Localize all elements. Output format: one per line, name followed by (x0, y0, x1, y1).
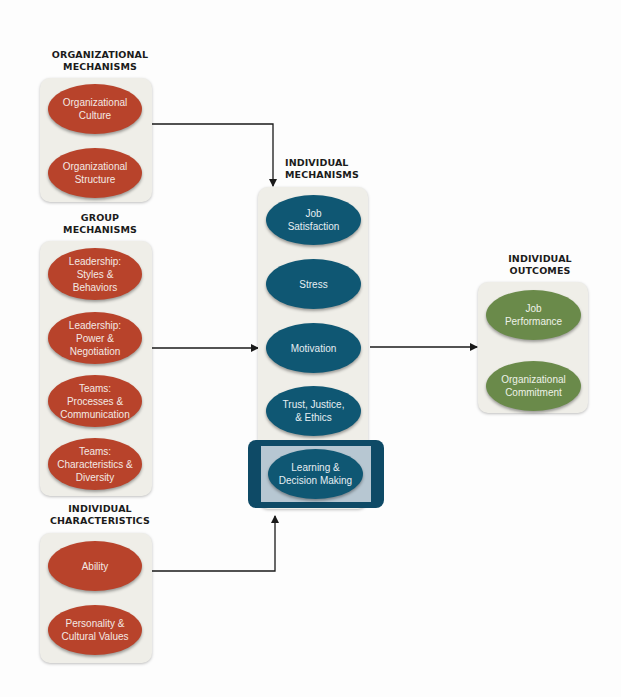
oval-personality-cultural-values[interactable]: Personality & Cultural Values (48, 605, 142, 655)
organizational-mechanisms-heading: ORGANIZATIONAL MECHANISMS (30, 49, 170, 73)
heading-line: OUTCOMES (470, 265, 610, 277)
heading-line: MECHANISMS (285, 169, 385, 181)
oval-teams-processes-communication[interactable]: Teams: Processes & Communication (48, 375, 142, 427)
heading-line: CHARACTERISTICS (30, 515, 170, 527)
heading-line: GROUP (30, 212, 170, 224)
heading-line: INDIVIDUAL (285, 157, 385, 169)
heading-line: ORGANIZATIONAL (30, 49, 170, 61)
heading-line: MECHANISMS (30, 61, 170, 73)
oval-leadership-styles-behaviors[interactable]: Leadership: Styles & Behaviors (48, 248, 142, 300)
individual-outcomes-heading: INDIVIDUAL OUTCOMES (470, 253, 610, 277)
oval-organizational-commitment[interactable]: Organizational Commitment (486, 361, 581, 411)
individual-mechanisms-heading: INDIVIDUAL MECHANISMS (245, 157, 385, 181)
oval-job-performance[interactable]: Job Performance (486, 290, 581, 340)
oval-teams-characteristics-diversity[interactable]: Teams: Characteristics & Diversity (48, 438, 142, 490)
oval-trust-justice-ethics[interactable]: Trust, Justice, & Ethics (266, 386, 361, 436)
oval-stress[interactable]: Stress (266, 259, 361, 309)
group-mechanisms-heading: GROUP MECHANISMS (30, 212, 170, 236)
oval-organizational-structure[interactable]: Organizational Structure (48, 148, 142, 198)
individual-characteristics-heading: INDIVIDUAL CHARACTERISTICS (30, 503, 170, 527)
oval-job-satisfaction[interactable]: Job Satisfaction (266, 195, 361, 245)
heading-line: INDIVIDUAL (470, 253, 610, 265)
oval-motivation[interactable]: Motivation (266, 323, 361, 373)
heading-line: INDIVIDUAL (30, 503, 170, 515)
oval-leadership-power-negotiation[interactable]: Leadership: Power & Negotiation (48, 312, 142, 364)
oval-ability[interactable]: Ability (48, 541, 142, 591)
oval-learning-decision-making[interactable]: Learning & Decision Making (268, 449, 363, 499)
heading-line: MECHANISMS (30, 224, 170, 236)
oval-organizational-culture[interactable]: Organizational Culture (48, 84, 142, 134)
